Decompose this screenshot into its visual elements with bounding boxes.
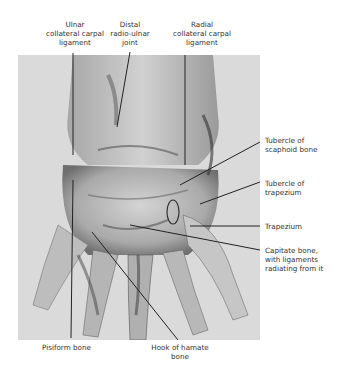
label-tubercle-scaphoid: Tubercle of scaphoid bone xyxy=(265,136,317,154)
label-hook-of-hamate: Hook of hamate bone xyxy=(140,343,220,361)
wrist-drawing xyxy=(18,55,260,340)
label-pisiform: Pisiform bone xyxy=(42,343,91,352)
label-trapezium: Trapezium xyxy=(265,222,302,231)
label-tubercle-trapezium: Tubercle of trapezium xyxy=(265,179,304,197)
anatomical-illustration xyxy=(18,55,260,340)
label-distal-radioulnar-joint: Distal radio-ulnar joint xyxy=(100,20,160,47)
label-capitate: Capitate bone, with ligaments radiating … xyxy=(265,246,323,273)
label-radial-collateral-ligament: Radial collateral carpal ligament xyxy=(162,20,242,47)
